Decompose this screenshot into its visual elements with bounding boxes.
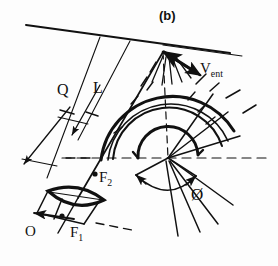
peripheral-dashes xyxy=(196,74,256,113)
dimension-q-label: Q xyxy=(57,82,69,98)
focus-1-subscript: 1 xyxy=(78,232,83,243)
velocity-label: Vent xyxy=(200,61,223,79)
diagram-linework xyxy=(22,25,272,236)
focus-1-label: F1 xyxy=(70,225,83,243)
panel-label: (b) xyxy=(159,9,176,22)
upper-tangent-line xyxy=(26,25,242,56)
radial-fan-lines xyxy=(166,94,240,236)
origin-label: O xyxy=(25,224,36,239)
left-dashed-guides xyxy=(141,62,156,86)
focus-2-label: F2 xyxy=(99,170,112,188)
velocity-subscript: ent xyxy=(211,68,223,79)
dimension-l-label: L xyxy=(93,80,103,96)
diagram-canvas xyxy=(0,0,278,266)
angle-phi-label: Ø xyxy=(191,186,203,203)
center-axes xyxy=(62,52,272,158)
velocity-vector-arrow xyxy=(163,52,200,75)
focus-2-dot xyxy=(92,171,97,176)
figure-panel-b: (b) Vent Q L F2 F1 O Ø xyxy=(0,0,278,266)
prism-body xyxy=(37,191,98,224)
focus-1-dot xyxy=(59,213,64,218)
focus-2-subscript: 2 xyxy=(107,177,112,188)
velocity-symbol: V xyxy=(200,60,211,76)
